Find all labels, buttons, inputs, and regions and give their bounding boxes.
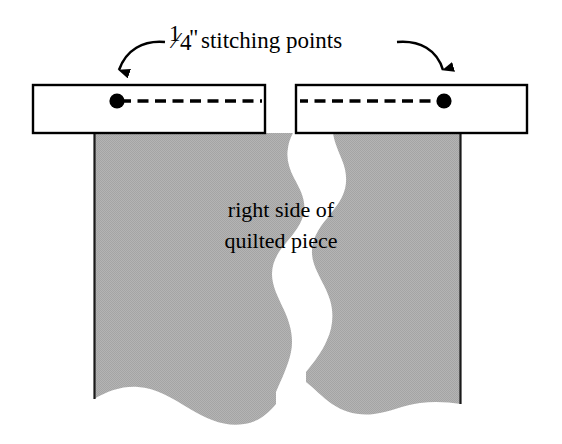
quilt-label-line-1: right side of — [228, 197, 335, 222]
caption-group: 1 ⁄ 4 " stitching points — [169, 21, 342, 55]
diagram-canvas: 1 ⁄ 4 " stitching points right side of q… — [0, 0, 562, 444]
caption-inch-mark: " — [189, 25, 198, 50]
right-leader-arrow-icon — [397, 42, 443, 70]
stitching-point-right-dot — [436, 93, 451, 108]
stitching-point-left-dot — [109, 93, 124, 108]
binding-strip-right — [296, 85, 527, 133]
quilting-diagram: 1 ⁄ 4 " stitching points right side of q… — [0, 0, 562, 444]
quilt-piece-group — [94, 133, 461, 425]
caption-stitching-points-label: stitching points — [201, 28, 342, 53]
binding-strip-left — [33, 85, 265, 133]
quilt-right-panel — [306, 133, 461, 415]
left-leader-arrow-icon — [119, 42, 165, 70]
quilt-left-panel — [94, 133, 304, 425]
quilt-label-line-2: quilted piece — [224, 228, 337, 253]
binding-strip-group — [33, 85, 527, 133]
